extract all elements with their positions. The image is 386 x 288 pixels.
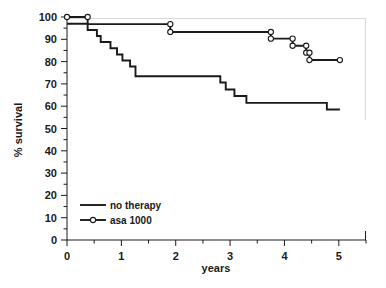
y-tick-label: 10 [45,212,57,224]
censor-marker [168,22,173,27]
censor-marker [168,29,173,34]
y-tick-label: 50 [45,123,57,135]
y-tick-label: 60 [45,100,57,112]
censor-marker [64,14,69,19]
x-tick-label: 3 [227,250,233,262]
chart-background [0,0,386,288]
legend-label: no therapy [110,200,162,211]
y-tick-label: 0 [51,234,57,246]
censor-marker [307,57,312,62]
survival-chart: 0102030405060708090100012345 no therapya… [0,0,386,288]
censor-marker [304,43,309,48]
censor-marker [337,57,342,62]
censor-marker [290,36,295,41]
x-tick-label: 5 [336,250,342,262]
censor-marker [307,50,312,55]
x-tick-label: 0 [64,250,70,262]
censor-marker [268,36,273,41]
chart-figure: 0102030405060708090100012345 no therapya… [0,0,386,288]
censor-marker [290,43,295,48]
y-tick-label: 40 [45,145,57,157]
y-tick-label: 20 [45,189,57,201]
censor-marker [85,14,90,19]
y-tick-label: 90 [45,33,57,45]
x-tick-label: 4 [281,250,288,262]
y-tick-label: 100 [39,11,57,23]
x-tick-label: 2 [173,250,179,262]
censor-marker [268,29,273,34]
x-axis-label: years [202,262,231,274]
y-tick-label: 70 [45,78,57,90]
y-tick-label: 80 [45,56,57,68]
x-tick-label: 1 [118,250,124,262]
legend-swatch-marker [90,217,95,222]
y-axis-label: % survival [12,103,24,157]
legend-label: asa 1000 [110,215,152,226]
y-tick-label: 30 [45,167,57,179]
